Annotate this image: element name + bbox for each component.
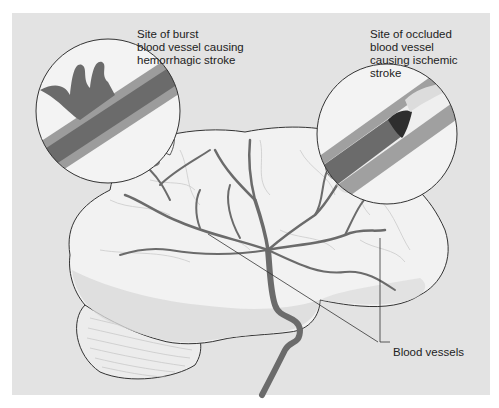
ischemic-stroke-label: Site of occluded blood vessel causing is… [370,28,458,80]
blood-vessels-label: Blood vessels [393,346,464,359]
hemorrhagic-stroke-label: Site of burst blood vessel causing hemor… [137,28,244,67]
